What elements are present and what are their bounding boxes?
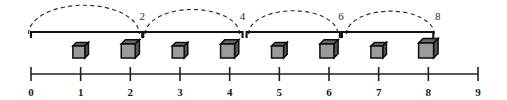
axis-tick-label: 4 — [227, 86, 233, 98]
cube-front-face — [320, 44, 334, 58]
axis-tick-label: 5 — [277, 86, 283, 98]
tick-labels-group: 0123456789 — [28, 86, 481, 98]
unit-cube — [172, 42, 188, 58]
axis-tick-label: 6 — [326, 86, 332, 98]
unit-cube — [73, 42, 89, 58]
unit-cube — [320, 40, 338, 58]
cube-front-face — [371, 46, 383, 58]
brackets-group — [31, 32, 433, 38]
jump-arcs-group — [29, 5, 435, 34]
unit-cube — [419, 39, 439, 59]
jump-arc-label: 8 — [435, 10, 441, 22]
figure-canvas: 2468 0123456789 — [0, 0, 507, 100]
cube-front-face — [73, 46, 85, 58]
axis-tick-label: 1 — [78, 86, 84, 98]
jump-arc-label: 2 — [140, 10, 146, 22]
cubes-group — [73, 39, 438, 59]
axis-tick-label: 2 — [128, 86, 134, 98]
unit-cube — [121, 40, 139, 58]
axis-tick-label: 3 — [177, 86, 183, 98]
unit-cube — [221, 40, 239, 58]
jump-arc — [249, 11, 338, 34]
jump-arc-label: 6 — [338, 10, 344, 22]
axis-tick-label: 8 — [426, 86, 432, 98]
jump-arc — [145, 9, 239, 34]
group-bracket — [342, 32, 433, 38]
cube-front-face — [419, 43, 434, 58]
group-bracket — [143, 32, 242, 38]
cube-front-face — [221, 44, 235, 58]
axis-tick-label: 7 — [376, 86, 382, 98]
group-bracket — [31, 32, 142, 38]
axis-group — [31, 67, 478, 81]
group-bracket — [247, 32, 340, 38]
axis-tick-label: 0 — [28, 86, 34, 98]
jump-arc — [29, 5, 140, 34]
jump-arc-label: 4 — [240, 10, 246, 22]
cube-front-face — [172, 46, 184, 58]
cube-front-face — [121, 44, 135, 58]
cube-front-face — [272, 46, 284, 58]
unit-cube — [371, 42, 387, 58]
axis-tick-label: 9 — [475, 86, 481, 98]
jump-arc — [346, 11, 434, 34]
number-line-figure: 2468 0123456789 — [0, 0, 507, 100]
unit-cube — [272, 42, 288, 58]
